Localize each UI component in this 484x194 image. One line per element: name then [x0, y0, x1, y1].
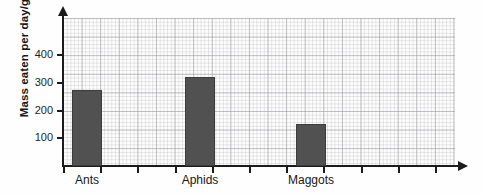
- x-axis-tick: [175, 166, 177, 173]
- y-axis-tick-label: 400: [13, 48, 53, 60]
- y-axis-arrow-icon: [58, 6, 68, 16]
- category-label-ants: Ants: [42, 173, 132, 187]
- x-axis-tick: [361, 166, 363, 173]
- bar-chart-figure: Mass eaten per day/g 400300200100 AntsAp…: [0, 0, 484, 194]
- y-axis-tick-label: 100: [13, 131, 53, 143]
- plot-grid-area: [63, 18, 455, 166]
- category-label-maggots: Maggots: [266, 173, 356, 187]
- x-axis-tick: [63, 166, 65, 173]
- x-axis-tick: [435, 166, 437, 173]
- x-axis-line: [62, 165, 460, 167]
- y-axis-line: [62, 14, 64, 167]
- bar-aphids: [185, 77, 215, 166]
- x-axis-tick: [286, 166, 288, 173]
- y-axis-tick: [57, 110, 64, 112]
- x-axis-tick: [398, 166, 400, 173]
- x-axis-arrow-icon: [458, 161, 468, 171]
- x-axis-tick: [212, 166, 214, 173]
- y-axis-tick: [57, 82, 64, 84]
- bar-ants: [72, 90, 102, 166]
- x-axis-tick: [323, 166, 325, 173]
- y-axis-tick: [57, 137, 64, 139]
- y-axis-tick-label: 300: [13, 76, 53, 88]
- x-axis-tick: [249, 166, 251, 173]
- x-axis-tick: [100, 166, 102, 173]
- x-axis-tick: [137, 166, 139, 173]
- y-axis-tick: [57, 54, 64, 56]
- category-label-aphids: Aphids: [155, 173, 245, 187]
- bar-maggots: [296, 124, 326, 166]
- y-axis-tick-label: 200: [13, 104, 53, 116]
